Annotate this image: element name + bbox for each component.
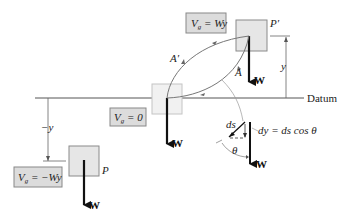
detail-leader <box>222 80 243 121</box>
theta-label: θ <box>232 144 238 156</box>
ds-label: ds <box>226 118 236 130</box>
dy-equation: dy = ds cos θ <box>258 124 317 136</box>
weight-label-top: W <box>254 74 265 86</box>
weight-label-detail: W <box>256 158 267 170</box>
height-label-neg-y: −y <box>41 121 53 133</box>
datum-label: Datum <box>307 92 337 104</box>
block-top <box>236 20 267 51</box>
height-label-y: y <box>280 60 286 72</box>
potential-energy-diagram: Datum P′ W Vg = Wy y W Vg = 0 A′ <box>0 0 349 221</box>
diagram-svg: Datum P′ W Vg = Wy y W Vg = 0 A′ <box>0 0 349 221</box>
position-label-bottom: P <box>101 164 109 176</box>
position-label-top: P′ <box>269 17 280 29</box>
energy-label-top: Vg = Wy <box>191 17 227 31</box>
path-label-a-prime: A′ <box>169 52 180 64</box>
weight-label-bottom: W <box>89 199 100 211</box>
energy-label-middle: Vg = 0 <box>114 111 143 125</box>
weight-label-middle: W <box>172 137 183 149</box>
energy-label-bottom: Vg = −Wy <box>18 171 62 185</box>
path-label-a: A <box>234 66 242 78</box>
